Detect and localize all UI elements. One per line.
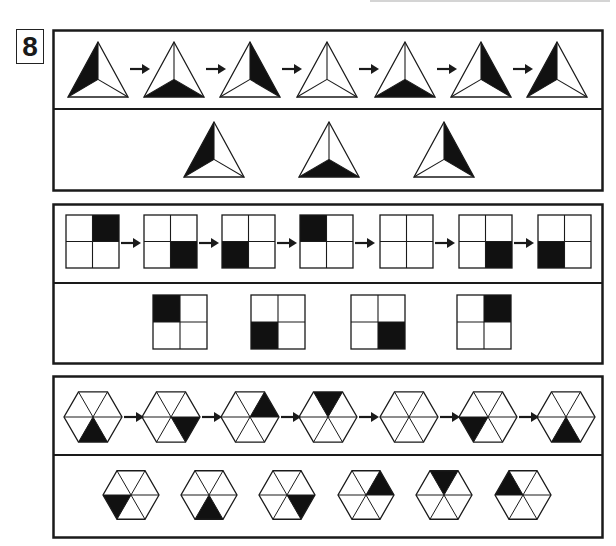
option-triangle-2: [299, 122, 359, 177]
right-arrow-icon: [437, 64, 457, 74]
sequence-square-6: [459, 215, 512, 268]
sequence-hexagon-3: [221, 392, 279, 442]
right-arrow-icon: [513, 64, 533, 74]
right-arrow-icon: [202, 412, 222, 422]
triangle-options-row: [184, 122, 474, 177]
option-square-4: [457, 295, 511, 349]
sequence-square-3: [222, 215, 275, 268]
right-arrow-icon: [121, 238, 141, 248]
right-arrow-icon: [130, 64, 150, 74]
right-arrow-icon: [277, 238, 297, 248]
right-arrow-icon: [514, 238, 534, 248]
sequence-triangle-2: [144, 42, 204, 97]
sequence-triangle-6: [451, 42, 511, 97]
right-arrow-icon: [355, 238, 375, 248]
option-hexagon-2: [181, 471, 237, 519]
sequence-square-7: [538, 215, 591, 268]
panel-2-frame: [54, 205, 603, 364]
sequence-square-5: [380, 215, 433, 268]
right-arrow-icon: [359, 64, 379, 74]
right-arrow-icon: [282, 64, 302, 74]
hexagon-options-row: [103, 471, 551, 519]
option-square-2: [251, 295, 305, 349]
option-square-3: [351, 295, 405, 349]
right-arrow-icon: [199, 238, 219, 248]
sequence-triangle-4: [297, 42, 357, 97]
option-hexagon-4: [338, 471, 394, 519]
sequence-triangle-5: [375, 42, 435, 97]
triangle-sequence-row: [68, 42, 587, 97]
sequence-hexagon-5: [380, 392, 438, 442]
sequence-hexagon-4: [299, 392, 357, 442]
sequence-triangle-3: [220, 42, 280, 97]
sequence-square-4: [300, 215, 353, 268]
sequence-hexagon-1: [64, 392, 122, 442]
option-hexagon-5: [416, 471, 472, 519]
sequence-square-1: [66, 215, 119, 268]
option-hexagon-1: [103, 471, 159, 519]
square-options-row: [153, 295, 511, 349]
right-arrow-icon: [519, 412, 539, 422]
option-square-1: [153, 295, 207, 349]
right-arrow-icon: [124, 412, 144, 422]
sequence-hexagon-2: [142, 392, 200, 442]
sequence-hexagon-6: [459, 392, 517, 442]
option-hexagon-6: [495, 471, 551, 519]
puzzle-canvas: [0, 0, 616, 546]
option-triangle-1: [184, 122, 244, 177]
option-triangle-3: [414, 122, 474, 177]
sequence-hexagon-7: [537, 392, 595, 442]
right-arrow-icon: [359, 412, 379, 422]
sequence-triangle-1: [68, 42, 128, 97]
right-arrow-icon: [281, 412, 301, 422]
sequence-square-2: [144, 215, 197, 268]
right-arrow-icon: [435, 238, 455, 248]
right-arrow-icon: [440, 412, 460, 422]
hexagon-sequence-row: [64, 392, 595, 442]
option-hexagon-3: [259, 471, 315, 519]
square-sequence-row: [66, 215, 591, 268]
sequence-triangle-7: [527, 42, 587, 97]
right-arrow-icon: [206, 64, 226, 74]
